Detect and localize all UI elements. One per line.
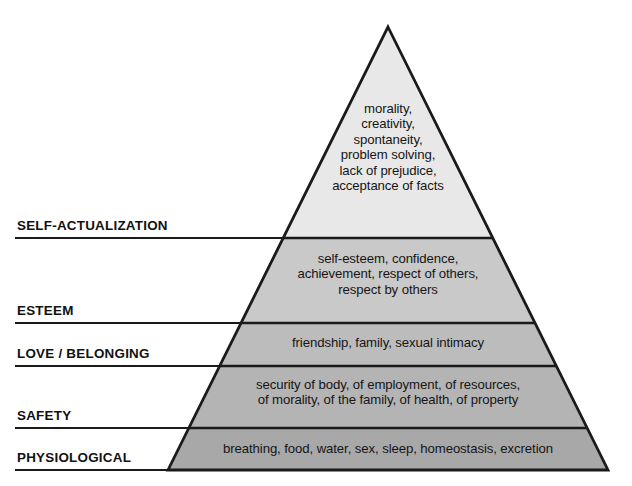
maslow-pyramid-diagram [0,0,632,486]
tier-shape-love-belonging [220,323,557,366]
tier-shape-safety [189,366,587,428]
tier-shape-esteem [241,238,535,323]
tier-shape-physiological [168,428,608,470]
